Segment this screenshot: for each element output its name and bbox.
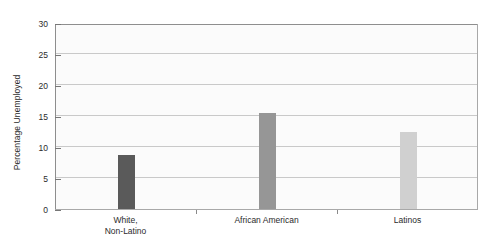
- gridline: [56, 53, 477, 54]
- x-axis-category-label: Latinos: [337, 215, 478, 226]
- y-axis-tick-label: 25: [6, 50, 48, 60]
- y-axis-tick-mark: [55, 86, 61, 87]
- y-axis-tick-label: 20: [6, 81, 48, 91]
- y-axis-tick-label: 0: [6, 205, 48, 215]
- y-axis-tick-mark: [55, 55, 61, 56]
- gridline: [56, 84, 477, 85]
- y-axis-tick-mark: [55, 179, 61, 180]
- y-axis-tick-label: 5: [6, 174, 48, 184]
- y-axis-tick-mark: [55, 210, 61, 211]
- y-axis-tick-labels: 051015202530: [0, 24, 48, 210]
- bar: [259, 113, 276, 209]
- bar-chart-figure: Percentage Unemployed 051015202530 White…: [0, 0, 494, 245]
- y-axis-tick-label: 10: [6, 143, 48, 153]
- y-axis-tick-mark: [55, 24, 61, 25]
- y-axis-tick-label: 15: [6, 112, 48, 122]
- bar: [118, 155, 135, 209]
- x-axis-tick-mark: [337, 210, 338, 214]
- x-axis-category-label: White, Non-Latino: [55, 215, 196, 237]
- x-axis-tick-mark: [196, 210, 197, 214]
- x-axis-category-label: African American: [196, 215, 337, 226]
- plot-area: [55, 24, 478, 210]
- y-axis-tick-mark: [55, 117, 61, 118]
- y-axis-tick-label: 30: [6, 19, 48, 29]
- bar: [400, 132, 417, 210]
- y-axis-tick-mark: [55, 148, 61, 149]
